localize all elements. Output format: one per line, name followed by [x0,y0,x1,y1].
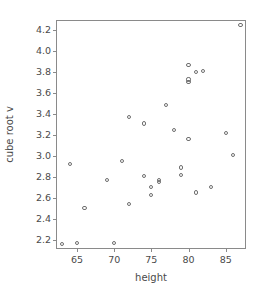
y-axis-tick-label: 2.4 [36,214,51,224]
y-axis-tick [53,51,57,52]
y-axis-tick [53,114,57,115]
data-point [127,115,131,119]
x-axis-tick-label: 85 [220,255,232,265]
y-axis-tick-label: 3.2 [36,130,51,140]
data-point [142,121,146,125]
y-axis-tick-label: 4.2 [36,26,51,36]
data-point [224,131,228,135]
data-point [105,178,109,182]
y-axis-tick [53,198,57,199]
data-point [75,241,79,245]
data-point [194,190,198,194]
x-axis-tick-label: 75 [145,255,157,265]
y-axis-tick-label: 2.8 [36,172,51,182]
y-axis-title: cube root v [2,20,16,249]
data-point [209,185,213,189]
y-axis-tick-label: 3.6 [36,88,51,98]
x-axis-tick [226,248,227,252]
y-axis-tick-label: 3.4 [36,109,51,119]
data-point [172,128,176,132]
plot-area: 2.22.42.62.83.03.23.43.63.84.04.26570758… [56,20,246,249]
y-axis-tick-label: 3.0 [36,151,51,161]
y-axis-title-text: cube root v [4,106,15,163]
scatter-plot-figure: 2.22.42.62.83.03.23.43.63.84.04.26570758… [0,0,264,295]
x-axis-tick [189,248,190,252]
x-axis-tick [151,248,152,252]
y-axis-tick-label: 2.2 [36,235,51,245]
data-point [127,202,131,206]
data-point [194,70,198,74]
y-axis-tick [53,177,57,178]
data-point [142,174,146,178]
y-axis-tick [53,219,57,220]
data-point [120,159,124,163]
x-axis-title: height [56,272,246,283]
data-point [179,165,183,169]
x-axis-tick [114,248,115,252]
data-point [186,63,190,67]
data-point [112,241,116,245]
y-axis-tick [53,72,57,73]
data-point [82,206,86,210]
data-point [68,162,72,166]
y-axis-tick-label: 3.8 [36,68,51,78]
data-points-layer [57,21,245,248]
data-point [186,80,190,84]
x-axis-tick-label: 80 [182,255,194,265]
y-axis-tick-label: 4.0 [36,47,51,57]
data-point [149,185,153,189]
x-axis-tick [77,248,78,252]
y-axis-tick [53,93,57,94]
data-point [238,23,242,27]
data-point [157,180,161,184]
y-axis-tick [53,30,57,31]
data-point [201,69,205,73]
x-axis-tick-label: 70 [108,255,120,265]
data-point [179,173,183,177]
y-axis-tick-label: 2.6 [36,193,51,203]
data-point [164,103,168,107]
y-axis-tick [53,135,57,136]
y-axis-tick [53,240,57,241]
data-point [231,153,235,157]
x-axis-tick-label: 65 [71,255,83,265]
data-point [186,137,190,141]
data-point [60,242,64,246]
data-point [149,193,153,197]
y-axis-tick [53,156,57,157]
